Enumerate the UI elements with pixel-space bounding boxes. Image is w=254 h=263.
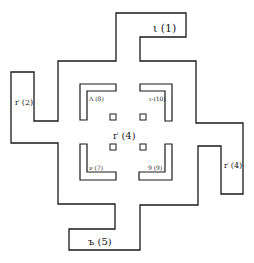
label-center: ґ (4) bbox=[113, 130, 136, 141]
label-bottom-arm: ъ (5) bbox=[88, 236, 112, 247]
label-right-arm: ґ (4) bbox=[224, 161, 242, 170]
swastika-floor-plan: ι (1) ґ (2) ґ (4) ґ (4) ъ (5) Λ (8) ι-(1… bbox=[0, 0, 254, 263]
label-left-arm: ґ (2) bbox=[15, 98, 33, 107]
marker-square-nw bbox=[110, 114, 116, 120]
marker-square-se bbox=[140, 144, 146, 150]
inner-bracket-bottom-left bbox=[80, 144, 116, 180]
label-inner-top-left: Λ (8) bbox=[88, 95, 104, 102]
marker-square-ne bbox=[140, 114, 146, 120]
label-top-arm: ι (1) bbox=[153, 22, 176, 35]
marker-square-sw bbox=[110, 144, 116, 150]
inner-bracket-top-right bbox=[140, 84, 172, 121]
inner-bracket-bottom-right bbox=[139, 144, 172, 180]
label-inner-bottom-left: ν (7) bbox=[89, 164, 103, 171]
inner-bracket-top-left bbox=[80, 84, 116, 120]
label-inner-bottom-right: 9 (9) bbox=[148, 164, 162, 171]
label-inner-top-right: ι-(10) bbox=[149, 95, 166, 102]
